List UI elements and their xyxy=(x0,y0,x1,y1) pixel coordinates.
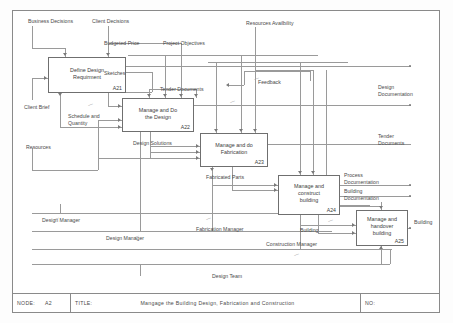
title-block: NODE: A2 TITLE: Mangage the Building Des… xyxy=(12,293,440,313)
label-design-solutions: Design Solutions xyxy=(133,140,172,147)
riser-a23-mech xyxy=(212,185,213,231)
arrowhead-resources-a25-top xyxy=(379,206,383,209)
line-schedule-v1 xyxy=(60,93,61,127)
label-tender-documents-internal: Tender Documents xyxy=(160,86,204,93)
label-project-objectives: Project Objectives xyxy=(163,40,205,47)
title-block-node-cell: NODE: A2 xyxy=(13,294,71,312)
line-budgeted-price-h1 xyxy=(128,55,318,56)
label-building-output: Building xyxy=(414,219,432,226)
rail-design-team xyxy=(32,264,390,265)
process-box-a23[interactable]: Manage and do Fabrication A23 xyxy=(200,133,268,167)
process-box-a24-code: A24 xyxy=(327,207,336,213)
arrowhead-building-int xyxy=(352,223,355,227)
label-business-decisions: Business Decisions xyxy=(28,18,73,25)
line-sketches-v2 xyxy=(108,92,109,106)
arrowhead-design-solutions-a24 xyxy=(274,188,277,192)
arrowhead-client-decisions xyxy=(106,53,110,56)
line-feedback-v1 xyxy=(244,71,245,85)
arrowhead-tender-ctrl xyxy=(194,94,198,97)
title-block-title-value: Mangage the Building Design, Fabrication… xyxy=(75,300,360,306)
arrowhead-sketches xyxy=(118,104,121,108)
line-business-decisions-v1 xyxy=(32,26,33,48)
process-box-a25[interactable]: Manage and handover building A25 xyxy=(356,210,408,246)
label-building-internal: Building xyxy=(300,227,318,234)
line-design-manager2-v xyxy=(140,213,141,231)
arrowhead-budgeted-price-a22 xyxy=(163,94,167,97)
label-sketches: Sketches xyxy=(104,70,125,77)
label-design-documentation: Design Documentation xyxy=(378,84,413,97)
line-design-manager1-v2 xyxy=(60,204,61,213)
label-client-decisions: Client Decisions xyxy=(92,18,129,25)
title-block-node-value: A2 xyxy=(45,300,52,306)
label-process-documentation: Process Documentation xyxy=(344,172,379,185)
line-resources-v1 xyxy=(32,148,33,170)
arrowhead-client-brief xyxy=(44,76,47,80)
line-fabricated-parts-h1 xyxy=(212,185,278,186)
label-client-brief: Client Brief xyxy=(24,104,49,111)
process-box-a21-code: A21 xyxy=(113,85,122,91)
line-project-objectives-h1 xyxy=(208,62,348,63)
arrowhead-fabricated-parts xyxy=(274,183,277,187)
line-design-solutions-h2 xyxy=(150,152,200,153)
arrowhead-feedback xyxy=(226,83,229,87)
arrowhead-project-objectives-a23 xyxy=(214,129,218,132)
label-schedule-and-quantity: Schedule and Quantity xyxy=(68,113,100,126)
arrowhead-schedule-down xyxy=(58,93,62,96)
process-box-a24-label: Manage and construct building xyxy=(279,183,339,204)
label-design-manager-1: Design Manager xyxy=(42,217,80,224)
label-construction-manager: Construction Manager xyxy=(266,241,317,248)
line-design-doc-h1 xyxy=(126,66,411,67)
title-block-title-cell: TITLE: Mangage the Building Design, Fabr… xyxy=(71,294,361,312)
process-box-a24[interactable]: Manage and construct building A24 xyxy=(278,175,340,215)
arrowhead-resources-a23 xyxy=(196,156,199,160)
arrowhead-budgeted-price-a23 xyxy=(239,129,243,132)
label-building-documentation: Building Documentation xyxy=(344,188,379,201)
line-feedback-h2 xyxy=(228,85,244,86)
arrowhead-resources-a22 xyxy=(118,118,121,122)
label-tender-documents-output: Tender Documents xyxy=(378,133,404,146)
label-resources: Resources xyxy=(26,144,51,151)
label-fabrication-manager: Fabrication Manager xyxy=(196,226,244,233)
line-project-objectives-v2 xyxy=(300,62,301,175)
process-box-a22-label: Manage and Do the Design xyxy=(123,107,193,121)
arrowhead-resources-availbility-a24 xyxy=(311,171,315,174)
process-box-a25-code: A25 xyxy=(395,238,404,244)
arrowhead-project-objectives-a24 xyxy=(298,171,302,174)
line-schedule-h1 xyxy=(60,127,122,128)
arrowhead-a25-mech xyxy=(379,246,383,249)
line-resources-h1 xyxy=(32,170,98,171)
process-box-a22[interactable]: Manage and Do the Design A22 xyxy=(122,98,194,132)
line-building-int-h1 xyxy=(300,225,356,226)
arrowhead-building-int-2 xyxy=(352,231,355,235)
title-block-number-label: NO: xyxy=(365,300,375,306)
line-resources-availbility-v2 xyxy=(313,70,314,175)
arrowhead-resources-availbility-a23 xyxy=(253,129,257,132)
line-a24-right-h1 xyxy=(340,205,370,206)
line-client-brief-v1 xyxy=(32,78,33,100)
title-block-title-label: TITLE: xyxy=(75,300,92,306)
line-design-team-v xyxy=(140,264,141,276)
process-box-a22-code: A22 xyxy=(181,124,190,130)
line-building-int-v1 xyxy=(300,215,301,225)
line-feedback-v2 xyxy=(310,71,311,81)
line-design-team-v2 xyxy=(390,249,391,264)
arrowhead-tender-ctrl-2 xyxy=(147,94,151,97)
label-design-manager-2: Design Manager xyxy=(106,235,144,242)
line-business-decisions-h1 xyxy=(32,48,65,49)
title-block-number-cell: NO: xyxy=(361,294,439,312)
line-design-solutions-h4 xyxy=(232,190,278,191)
rail-design-manager xyxy=(32,213,280,214)
arrowhead-design-solutions-2 xyxy=(196,144,199,148)
rail-construction-manager xyxy=(32,249,392,250)
label-design-team: Design Team xyxy=(212,273,242,280)
label-budgeted-price: Budgeted Price xyxy=(104,40,139,47)
line-tender-docs-h1 xyxy=(194,105,411,106)
label-fabricated-parts: Fabricated Parts xyxy=(206,174,244,181)
arrowhead-business-decisions xyxy=(63,53,67,56)
label-resources-availbility: Resources Availbility xyxy=(246,20,293,27)
process-box-a23-label: Manage and do Fabrication xyxy=(201,142,267,156)
arrowhead-fabricated-parts-down xyxy=(210,168,214,171)
title-block-node-label: NODE: xyxy=(17,300,35,306)
line-building-int-h2 xyxy=(318,233,356,234)
line-sketches-h1 xyxy=(126,72,152,73)
